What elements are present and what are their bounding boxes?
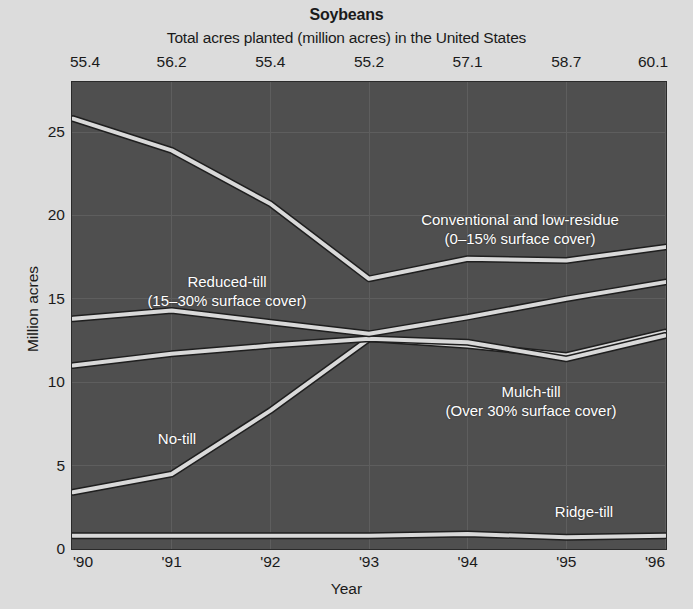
chart-subtitle: Total acres planted (million acres) in t… xyxy=(0,29,693,47)
series-label-conventional-line2: (0–15% surface cover) xyxy=(384,229,656,248)
top-axis-value: 56.2 xyxy=(157,53,187,71)
series-label-no-till: No-till xyxy=(118,429,236,448)
chart-figure: Soybeans Total acres planted (million ac… xyxy=(0,0,693,609)
series-label-reduced-till-line1: Reduced-till xyxy=(102,272,352,291)
series-label-mulch-till-line1: Mulch-till xyxy=(402,382,660,401)
top-axis-value: 57.1 xyxy=(453,53,483,71)
series-label-reduced-till-line2: (15–30% surface cover) xyxy=(102,291,352,310)
series-label-conventional-line1: Conventional and low-residue xyxy=(384,210,656,229)
top-axis-values: 55.456.255.455.257.158.760.1 xyxy=(71,53,667,75)
x-axis-tick-label: '92 xyxy=(260,553,280,571)
top-axis-value: 55.4 xyxy=(70,53,100,71)
x-axis-tick-label: '95 xyxy=(556,553,576,571)
x-axis-tick-label: '94 xyxy=(458,553,478,571)
x-axis-title: Year xyxy=(0,580,693,598)
series-label-conventional: Conventional and low-residue (0–15% surf… xyxy=(384,210,656,248)
top-axis-value: 60.1 xyxy=(638,53,668,71)
top-axis-value: 55.2 xyxy=(354,53,384,71)
y-axis-title: Million acres xyxy=(24,229,42,389)
series-lines-svg xyxy=(72,82,666,549)
x-axis-ticks: '90'91'92'93'94'95'96 xyxy=(71,553,667,575)
y-axis-title-wrap: Million acres xyxy=(16,0,36,609)
x-axis-tick-label: '96 xyxy=(645,553,665,571)
series-label-no-till-line1: No-till xyxy=(118,429,236,448)
series-label-mulch-till: Mulch-till (Over 30% surface cover) xyxy=(402,382,660,420)
top-axis-value: 58.7 xyxy=(551,53,581,71)
top-axis-value: 55.4 xyxy=(255,53,285,71)
plot-area: Conventional and low-residue (0–15% surf… xyxy=(71,81,667,550)
series-label-ridge-till: Ridge-till xyxy=(514,502,654,521)
x-axis-tick-label: '91 xyxy=(162,553,182,571)
series-label-reduced-till: Reduced-till (15–30% surface cover) xyxy=(102,272,352,310)
series-label-ridge-till-line1: Ridge-till xyxy=(514,502,654,521)
chart-title: Soybeans xyxy=(0,6,693,24)
x-axis-tick-label: '90 xyxy=(73,553,93,571)
series-label-mulch-till-line2: (Over 30% surface cover) xyxy=(402,401,660,420)
x-axis-tick-label: '93 xyxy=(359,553,379,571)
